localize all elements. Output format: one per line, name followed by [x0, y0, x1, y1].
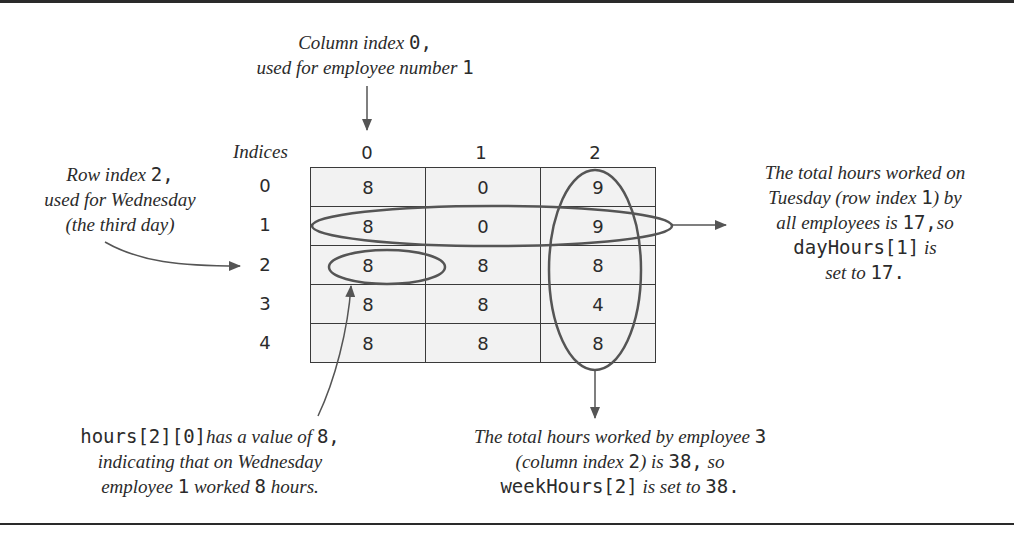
column-2-highlight-ellipse	[549, 170, 641, 370]
row-note-arrow	[105, 242, 240, 266]
week-total-note: The total hours worked by employee 3 (co…	[420, 424, 820, 499]
day-total-note: The total hours worked on Tuesday (row i…	[720, 160, 1010, 285]
row-1-highlight-ellipse	[312, 206, 672, 246]
cell-2-0-highlight-ellipse	[329, 250, 445, 284]
cell-note-arrow	[318, 286, 351, 416]
bottom-rule	[0, 523, 1014, 525]
cell-value-note: hours[2][0]has a value of 8, indicating …	[40, 424, 380, 499]
